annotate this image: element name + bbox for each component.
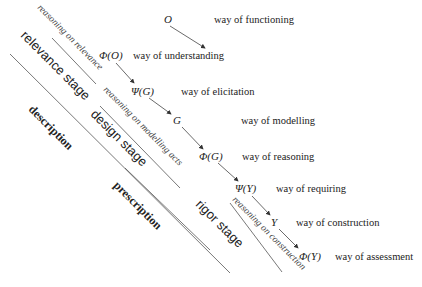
way-label: way of functioning [214,14,295,25]
node-label: Ψ(Y) [235,182,257,195]
node-label: Φ(O) [99,49,123,62]
arrow-icon [182,127,203,149]
way-label: way of construction [296,217,380,228]
way-label: way of reasoning [242,151,315,162]
diagram-canvas: Oway of functioningΦ(O)way of understand… [0,0,422,287]
arrow-icon [116,63,134,83]
node-label: Ψ(G) [131,85,154,98]
node-label: O [164,13,172,25]
reasoning-label: reasoning on construction [231,194,309,272]
stage-diagram: Oway of functioningΦ(O)way of understand… [0,0,422,287]
way-label: way of modelling [241,115,316,126]
node-label: G [173,114,181,126]
node-label: Y [271,216,279,228]
phase-label: prescription [111,178,165,232]
phase-label: description [26,102,77,153]
way-label: way of requiring [276,183,347,194]
way-label: way of elicitation [181,86,255,97]
arrow-icon [218,163,238,181]
node-label: Φ(G) [199,150,223,163]
arrow-icon [170,26,205,48]
stage-label: relevance stage [18,28,94,104]
reasoning-labels: reasoning on relevancereasoning on model… [36,2,309,272]
arrow-icon [149,98,171,114]
way-label: way of understanding [133,50,225,61]
way-label: way of assessment [335,251,413,262]
